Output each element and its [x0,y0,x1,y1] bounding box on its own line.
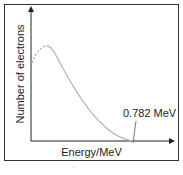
stray-mark [73,166,74,168]
curve-dashed-segment [32,46,46,63]
y-axis-label: Number of electrons [14,24,26,124]
endpoint-annotation: 0.782 MeV [123,107,176,119]
x-axis-label: Energy/MeV [0,146,183,158]
curve-solid-segment [46,46,133,141]
annotation-pointer [133,121,136,143]
